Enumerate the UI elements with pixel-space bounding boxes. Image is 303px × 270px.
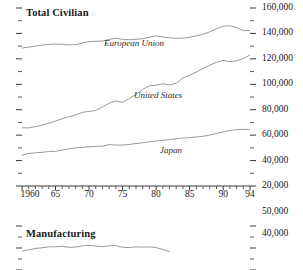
y-axis-tick-label: 160,000 bbox=[262, 3, 293, 13]
y-axis-tick-label: 120,000 bbox=[262, 54, 293, 64]
x-axis-tick-label: 65 bbox=[51, 190, 61, 200]
x-axis-labels-total-civilian: 196065707580859094 bbox=[0, 190, 303, 204]
y-axis-tick-label: 40,000 bbox=[262, 156, 288, 166]
x-axis-tick-label: 75 bbox=[118, 190, 128, 200]
x-axis-tick-label: 80 bbox=[151, 190, 161, 200]
panel-total-civilian: Total Civilian 160,000140,000120,000100,… bbox=[0, 0, 303, 205]
y-axis-tick-label: 50,000 bbox=[262, 207, 288, 217]
x-axis-tick-label: 70 bbox=[84, 190, 94, 200]
x-axis-tick-label: 90 bbox=[218, 190, 228, 200]
y-axis-tick-label: 80,000 bbox=[262, 105, 288, 115]
series-line-japan bbox=[22, 129, 250, 155]
chart-page: Total Civilian 160,000140,000120,000100,… bbox=[0, 0, 303, 270]
x-axis-tick-label: 1960 bbox=[20, 190, 39, 200]
panel-manufacturing: 50,00040,000 European Union bbox=[0, 212, 303, 270]
x-axis-tick-label: 94 bbox=[245, 190, 255, 200]
panel-title-manufacturing: Manufacturing bbox=[26, 228, 96, 239]
series-label-united-states: United States bbox=[134, 90, 182, 100]
series-label-european-union: European Union bbox=[104, 38, 164, 48]
y-axis-tick-label: 60,000 bbox=[262, 130, 288, 140]
series-line-european-union-manufacturing bbox=[22, 245, 170, 251]
y-axis-tick-label: 140,000 bbox=[262, 28, 293, 38]
y-axis-tick-label: 40,000 bbox=[262, 229, 288, 239]
y-axis-tick-label: 100,000 bbox=[262, 79, 293, 89]
series-label-japan: Japan bbox=[160, 145, 182, 155]
x-axis-tick-label: 85 bbox=[185, 190, 195, 200]
